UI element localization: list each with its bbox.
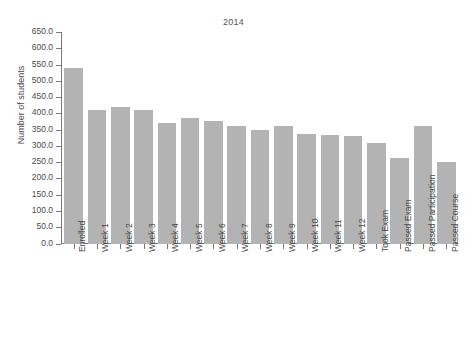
- y-tick-mark: [56, 195, 61, 196]
- x-tick-label: Week 6: [217, 223, 227, 252]
- x-tick-label: Week 5: [194, 223, 204, 252]
- x-tick-label: Passed Course: [450, 194, 460, 252]
- x-tick-mark: [213, 244, 214, 249]
- x-tick-mark: [446, 244, 447, 249]
- x-tick-label: Week 10: [310, 219, 320, 252]
- x-tick-mark: [376, 244, 377, 249]
- y-tick-mark: [56, 162, 61, 163]
- x-tick-label: Week 12: [357, 219, 367, 252]
- x-tick-mark: [260, 244, 261, 249]
- chart-title: 2014: [0, 17, 467, 27]
- y-tick-label: 300.0: [32, 140, 53, 150]
- y-tick-mark: [56, 130, 61, 131]
- x-tick-mark: [400, 244, 401, 249]
- y-axis-label: Number of students: [16, 45, 26, 165]
- x-tick-label: Week 9: [287, 223, 297, 252]
- y-tick-label: 100.0: [32, 205, 53, 215]
- y-tick-mark: [56, 32, 61, 33]
- x-tick-mark: [237, 244, 238, 249]
- y-tick-mark: [56, 97, 61, 98]
- x-tick-label: Week 7: [240, 223, 250, 252]
- x-tick-mark: [167, 244, 168, 249]
- bar[interactable]: [64, 68, 83, 244]
- y-tick-label: 250.0: [32, 156, 53, 166]
- x-tick-label: Enrolled: [77, 221, 87, 252]
- x-tick-mark: [120, 244, 121, 249]
- y-tick-label: 50.0: [36, 221, 53, 231]
- x-tick-mark: [307, 244, 308, 249]
- x-tick-label: Took Exam: [380, 210, 390, 252]
- x-tick-mark: [74, 244, 75, 249]
- y-tick-mark: [56, 211, 61, 212]
- y-tick-label: 400.0: [32, 107, 53, 117]
- y-tick-label: 0.0: [41, 238, 53, 248]
- x-tick-label: Week 11: [333, 219, 343, 252]
- chart-figure: 2014 Number of students 0.050.0100.0150.…: [0, 0, 467, 347]
- y-tick-label: 500.0: [32, 75, 53, 85]
- y-tick-mark: [56, 81, 61, 82]
- x-tick-mark: [97, 244, 98, 249]
- x-tick-mark: [353, 244, 354, 249]
- plot-area: [62, 32, 458, 244]
- x-tick-mark: [144, 244, 145, 249]
- y-tick-mark: [56, 146, 61, 147]
- y-tick-label: 550.0: [32, 59, 53, 69]
- y-tick-label: 650.0: [32, 26, 53, 36]
- x-tick-mark: [330, 244, 331, 249]
- y-tick-label: 150.0: [32, 189, 53, 199]
- x-tick-mark: [190, 244, 191, 249]
- x-tick-label: Passed Exam: [403, 200, 413, 252]
- x-tick-mark: [283, 244, 284, 249]
- y-tick-mark: [56, 244, 61, 245]
- x-tick-label: Week 1: [100, 223, 110, 252]
- y-tick-mark: [56, 227, 61, 228]
- x-tick-label: Passed Participation: [427, 175, 437, 253]
- y-tick-mark: [56, 178, 61, 179]
- y-tick-label: 350.0: [32, 124, 53, 134]
- y-tick-mark: [56, 48, 61, 49]
- y-tick-mark: [56, 65, 61, 66]
- y-tick-label: 200.0: [32, 172, 53, 182]
- x-tick-label: Week 2: [124, 223, 134, 252]
- x-tick-mark: [423, 244, 424, 249]
- y-tick-label: 600.0: [32, 42, 53, 52]
- y-tick-mark: [56, 113, 61, 114]
- x-tick-label: Week 4: [170, 223, 180, 252]
- x-tick-label: Week 3: [147, 223, 157, 252]
- y-tick-label: 450.0: [32, 91, 53, 101]
- x-tick-label: Week 8: [264, 223, 274, 252]
